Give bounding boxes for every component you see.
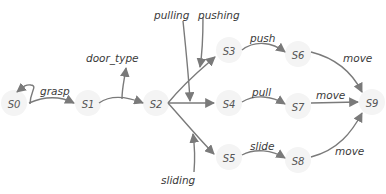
node-s7: S7 xyxy=(285,93,311,119)
label-sliding: sliding xyxy=(161,174,196,186)
edge-sliding xyxy=(193,134,195,172)
svg-text:S1: S1 xyxy=(82,99,95,110)
label-move-s7: move xyxy=(316,89,345,101)
edge-s7-s9 xyxy=(311,102,358,103)
edge-s2-s3 xyxy=(168,57,215,103)
svg-text:S3: S3 xyxy=(223,46,236,57)
label-door-type: door_type xyxy=(86,52,139,65)
node-s5: S5 xyxy=(216,144,242,170)
node-s6: S6 xyxy=(285,41,311,67)
svg-text:S7: S7 xyxy=(292,102,305,113)
edge-pulling xyxy=(183,21,190,101)
svg-text:S6: S6 xyxy=(292,50,305,61)
edge-pushing xyxy=(200,17,203,67)
label-push: push xyxy=(249,32,275,44)
svg-text:S9: S9 xyxy=(366,98,379,109)
label-pulling: pulling xyxy=(153,9,190,21)
label-slide: slide xyxy=(250,140,274,152)
svg-text:S2: S2 xyxy=(150,99,163,110)
label-move-s6: move xyxy=(343,52,372,64)
node-s1: S1 xyxy=(75,90,101,116)
edge-s2-s5 xyxy=(168,103,214,154)
label-pull: pull xyxy=(251,86,271,98)
state-diagram: S0 S1 S2 S3 S4 S5 S6 S7 S8 S9 grasp door… xyxy=(0,0,386,194)
svg-text:S4: S4 xyxy=(223,99,236,110)
label-grasp: grasp xyxy=(40,85,70,97)
svg-text:S0: S0 xyxy=(8,99,21,110)
edge-door-type xyxy=(122,68,126,99)
node-s4: S4 xyxy=(216,90,242,116)
edge-s1-s2 xyxy=(99,97,143,103)
edge-s3-s6 xyxy=(242,43,285,52)
edge-s0-s1 xyxy=(29,98,74,103)
node-s2: S2 xyxy=(143,90,169,116)
svg-text:S8: S8 xyxy=(292,156,305,167)
label-move-s8: move xyxy=(335,145,364,157)
svg-text:S5: S5 xyxy=(223,153,236,164)
label-pushing: pushing xyxy=(197,9,240,21)
node-s0: S0 xyxy=(1,90,27,116)
node-s8: S8 xyxy=(285,147,311,173)
node-s3: S3 xyxy=(216,37,242,63)
node-s9: S9 xyxy=(359,89,385,115)
